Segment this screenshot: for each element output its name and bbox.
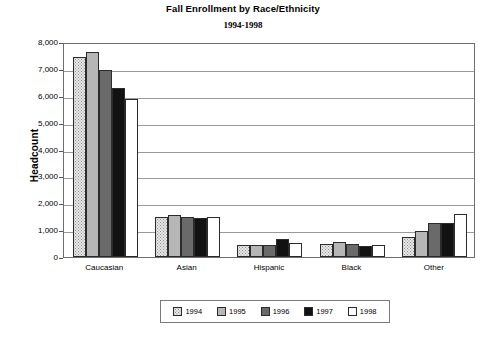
- bar-black-1997: [359, 246, 372, 257]
- bar-group-hispanic: [229, 44, 311, 257]
- enrollment-bar-chart: Fall Enrollment by Race/Ethnicity 1994-1…: [0, 0, 486, 338]
- y-axis-tick-label: 6,000: [0, 93, 58, 101]
- y-axis-title: Headcount: [29, 96, 40, 216]
- bar-group-black: [311, 44, 393, 257]
- bar-other-1996: [428, 223, 441, 257]
- bar-other-1998: [454, 214, 467, 257]
- bar-hispanic-1995: [250, 245, 263, 257]
- x-axis-label-caucasian: Caucasian: [63, 263, 145, 272]
- chart-subtitle: 1994-1998: [0, 20, 486, 31]
- bar-group-asian: [146, 44, 228, 257]
- legend-swatch-1997: [304, 307, 313, 316]
- x-axis-label-asian: Asian: [145, 263, 227, 272]
- y-axis-tick-mark: [59, 258, 63, 259]
- legend-swatch-1994: [173, 307, 182, 316]
- bar-caucasian-1995: [86, 52, 99, 257]
- bar-hispanic-1994: [237, 245, 250, 257]
- bar-black-1998: [372, 245, 385, 257]
- legend-swatch-1998: [348, 307, 357, 316]
- legend-label-1995: 1995: [229, 308, 246, 316]
- bar-caucasian-1998: [125, 99, 138, 257]
- bar-other-1997: [441, 223, 454, 257]
- legend-label-1996: 1996: [273, 308, 290, 316]
- legend-swatch-1995: [217, 307, 226, 316]
- bar-asian-1996: [181, 217, 194, 257]
- y-axis-tick-label: 3,000: [0, 173, 58, 181]
- legend-item-1996: 1996: [261, 307, 290, 316]
- x-axis-label-other: Other: [393, 263, 475, 272]
- y-axis-tick-label: 7,000: [0, 66, 58, 74]
- bar-caucasian-1994: [73, 57, 86, 257]
- bar-asian-1995: [168, 215, 181, 257]
- y-axis-tick-label: 1,000: [0, 227, 58, 235]
- bar-hispanic-1998: [289, 243, 302, 258]
- bar-group-other: [394, 44, 476, 257]
- legend-swatch-1996: [261, 307, 270, 316]
- bar-other-1995: [415, 231, 428, 257]
- legend-label-1998: 1998: [360, 308, 377, 316]
- legend-label-1997: 1997: [316, 308, 333, 316]
- legend-item-1997: 1997: [304, 307, 333, 316]
- bar-caucasian-1997: [112, 88, 125, 257]
- bar-other-1994: [402, 237, 415, 257]
- legend: 19941995199619971998: [160, 300, 390, 323]
- bar-asian-1998: [207, 217, 220, 257]
- y-axis-tick-label: 2,000: [0, 200, 58, 208]
- bar-black-1996: [346, 244, 359, 257]
- bar-asian-1997: [194, 218, 207, 257]
- bar-hispanic-1996: [263, 245, 276, 257]
- bar-hispanic-1997: [276, 239, 289, 257]
- chart-title: Fall Enrollment by Race/Ethnicity: [0, 3, 486, 14]
- legend-item-1994: 1994: [173, 307, 202, 316]
- y-axis-tick-label: 0: [0, 254, 58, 262]
- x-axis-label-hispanic: Hispanic: [228, 263, 310, 272]
- legend-item-1995: 1995: [217, 307, 246, 316]
- bar-asian-1994: [155, 217, 168, 257]
- x-axis-label-black: Black: [310, 263, 392, 272]
- bar-black-1994: [320, 244, 333, 257]
- y-axis-tick-label: 8,000: [0, 39, 58, 47]
- bar-group-caucasian: [64, 44, 146, 257]
- y-axis-tick-label: 5,000: [0, 120, 58, 128]
- plot-area: [63, 43, 475, 258]
- bar-black-1995: [333, 242, 346, 257]
- legend-item-1998: 1998: [348, 307, 377, 316]
- bar-caucasian-1996: [99, 70, 112, 257]
- legend-label-1994: 1994: [185, 308, 202, 316]
- y-axis-tick-label: 4,000: [0, 147, 58, 155]
